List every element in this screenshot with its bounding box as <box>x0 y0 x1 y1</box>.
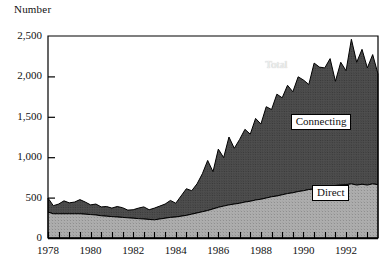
x-tick-label: 1986 <box>198 244 238 256</box>
y-tick-label: 2,000 <box>2 69 42 81</box>
y-tick-label: 500 <box>2 191 42 203</box>
x-tick-label: 1992 <box>326 244 366 256</box>
x-tick-label: 1984 <box>156 244 196 256</box>
series-annotation-connecting: Connecting <box>291 114 352 130</box>
y-tick-label: 0 <box>2 231 42 243</box>
series-annotation-direct: Direct <box>312 185 349 201</box>
y-tick-label: 2,500 <box>2 29 42 41</box>
y-tick-label: 1,000 <box>2 150 42 162</box>
y-axis-title: Number <box>14 3 51 15</box>
chart-svg <box>0 0 391 275</box>
x-tick-label: 1978 <box>28 244 68 256</box>
y-tick-label: 1,500 <box>2 110 42 122</box>
x-tick-label: 1982 <box>113 244 153 256</box>
series-annotation-total: Total <box>265 58 287 70</box>
x-tick-label: 1990 <box>283 244 323 256</box>
x-tick-label: 1980 <box>71 244 111 256</box>
x-tick-label: 1988 <box>241 244 281 256</box>
chart-figure <box>0 0 391 275</box>
